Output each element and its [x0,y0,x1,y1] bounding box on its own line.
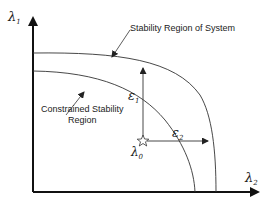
epsilon1-label: ε1 [128,88,139,105]
inner-curve-label-line1: Constrained Stability [41,104,124,114]
point-label: λ0 [130,145,144,161]
inner-constrained-curve [33,71,195,192]
y-axis-label: λ1 [7,9,21,26]
stability-diagram: λ1 λ2 Stability Region of System Constra… [0,0,274,205]
outer-label-leader [112,30,130,57]
x-axis-label: λ2 [244,170,258,187]
inner-curve-label-line2: Region [68,115,97,125]
operating-point-star-icon [137,135,149,146]
outer-stability-curve [33,53,216,192]
epsilon2-label: ε2 [172,125,184,142]
outer-curve-label: Stability Region of System [130,23,235,33]
